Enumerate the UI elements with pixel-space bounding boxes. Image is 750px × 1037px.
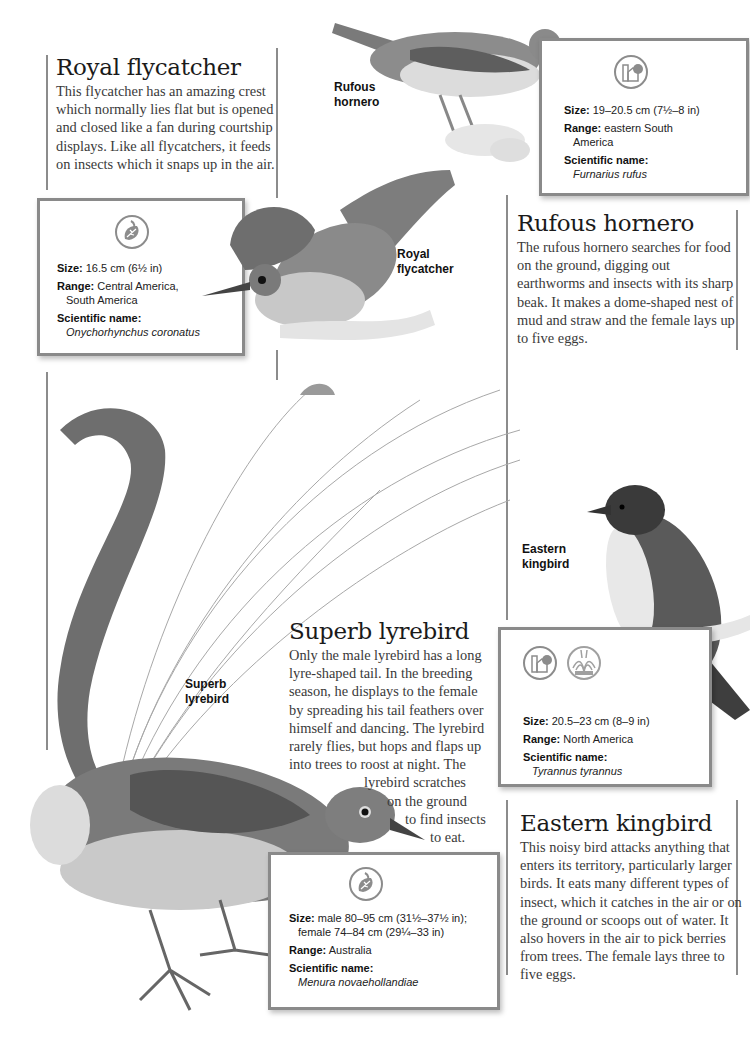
size-label: Size: [523,715,549,727]
description-line: rarely flies, but hops and flaps up [289,737,509,755]
size-value: 19–20.5 cm (7½–8 in) [593,104,700,116]
eastern-kingbird-caption: Eastern kingbird [522,542,569,571]
description-line: Only the male lyrebird has a long [289,646,509,664]
rainforest-leaf-icon [349,867,383,901]
royal-flycatcher-section: Royal flycatcher This flycatcher has an … [56,54,276,173]
eastern-kingbird-description: This noisy bird attacks anything that en… [520,838,748,984]
size-value: 20.5–23 cm (8–9 in) [552,715,650,727]
scientific-name-value: Furnarius rufus [564,167,746,181]
range-value: Australia [329,944,372,956]
caption-line: Royal [397,247,454,262]
range-label: Range: [289,944,326,956]
rainforest-leaf-icon [115,215,149,249]
size-label: Size: [289,912,315,924]
rufous-hornero-section: Rufous hornero The rufous hornero search… [517,210,737,347]
eastern-kingbird-section: Eastern kingbird This noisy bird attacks… [520,810,748,984]
description-line: on the ground [289,792,509,810]
range-value: Central America, [97,280,178,292]
royal-flycatcher-caption: Royal flycatcher [397,247,454,276]
scientific-name-label: Scientific name: [523,751,607,763]
range-value-continued: America [564,135,746,149]
scientific-name-label: Scientific name: [289,962,373,974]
range-label: Range: [523,733,560,745]
superb-lyrebird-fact-box: Size: male 80–95 cm (31½–37½ in);female … [268,852,500,1010]
description-line: lyre-shaped tail. In the breeding [289,664,509,682]
superb-lyrebird-caption: Superb lyrebird [185,677,229,706]
size-value-continued: female 74–84 cm (29¼–33 in) [289,925,497,939]
eastern-kingbird-fact-box: Size: 20.5–23 cm (8–9 in) Range: North A… [498,627,712,787]
size-value: 16.5 cm (6½ in) [86,262,162,274]
scientific-name-value: Menura novaehollandiae [289,975,497,989]
scientific-name-label: Scientific name: [57,312,141,324]
caption-line: Superb [185,677,229,692]
royal-flycatcher-title: Royal flycatcher [56,54,276,80]
rufous-hornero-description: The rufous hornero searches for food on … [517,238,737,347]
description-line: to eat. [289,828,509,846]
caption-line: lyrebird [185,692,229,707]
rufous-hornero-caption: Rufous hornero [334,80,379,109]
scientific-name-label: Scientific name: [564,154,648,166]
description-line: by spreading his tail feathers over [289,701,509,719]
caption-line: flycatcher [397,262,454,277]
caption-line: hornero [334,95,379,110]
farmland-icon [614,55,648,89]
range-label: Range: [57,280,94,292]
caption-line: Eastern [522,542,569,557]
description-line: into trees to roost at night. The [289,755,509,773]
farmland-icon [523,646,557,680]
eastern-kingbird-title: Eastern kingbird [520,810,748,836]
description-line: himself and dancing. The lyrebird [289,719,509,737]
description-line: to find insects [289,810,509,828]
size-value: male 80–95 cm (31½–37½ in); [318,912,467,924]
caption-line: Rufous [334,80,379,95]
range-value: North America [563,733,633,745]
range-value: eastern South [604,122,673,134]
description-line: season, he displays to the female [289,682,509,700]
rufous-hornero-title: Rufous hornero [517,210,737,236]
scientific-name-value: Tyrannus tyrannus [523,764,709,778]
superb-lyrebird-title: Superb lyrebird [289,618,509,644]
size-label: Size: [564,104,590,116]
size-label: Size: [57,262,83,274]
range-label: Range: [564,122,601,134]
wetland-icon [567,646,601,680]
superb-lyrebird-section: Superb lyrebird Only the male lyrebird h… [289,618,509,846]
caption-line: kingbird [522,557,569,572]
superb-lyrebird-description: Only the male lyrebird has a long lyre-s… [289,646,509,846]
rufous-hornero-fact-box: Size: 19–20.5 cm (7½–8 in) Range: easter… [539,38,749,196]
column-rule [46,55,48,190]
description-line: lyrebird scratches [289,773,509,791]
